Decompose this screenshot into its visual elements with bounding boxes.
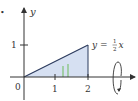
rotation-icon [113,62,121,94]
x-tick-label-0: 0 [15,82,21,92]
svg-text:x: x [119,40,124,50]
y-tick-label-1: 1 [11,40,17,50]
svg-text:1: 1 [113,38,117,44]
x-tick-label-2: 2 [85,84,91,94]
y-axis-label: y [29,6,36,17]
x-tick-label-1: 1 [52,84,58,94]
diagram: • y 0 1 2 1 y = 1 2 x [0,0,138,101]
curve-label: y = 1 2 x [91,38,124,52]
svg-text:y =: y = [91,40,110,50]
svg-text:2: 2 [113,46,117,52]
figure-marker: • [0,8,5,17]
